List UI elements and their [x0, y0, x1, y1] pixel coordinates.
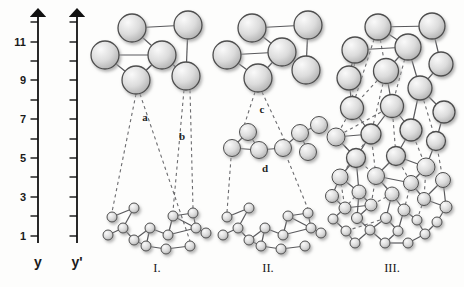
network-node: [365, 199, 377, 211]
network-node: [103, 230, 113, 240]
network-node: [161, 244, 171, 254]
network-node: [403, 238, 413, 248]
network-node: [224, 140, 241, 157]
network-node: [350, 238, 360, 248]
network-node: [185, 241, 195, 251]
network-node: [292, 125, 309, 142]
network-node: [342, 37, 368, 63]
network-node: [91, 41, 119, 69]
network-node: [174, 11, 202, 39]
network-node: [341, 226, 351, 236]
network-node: [408, 76, 432, 100]
network-node: [218, 230, 228, 240]
cross-edge-label-a: a: [142, 111, 148, 123]
panel-1-cross-edges: [112, 90, 193, 241]
network-node: [427, 132, 446, 151]
network-node: [240, 124, 257, 141]
network-node: [276, 244, 286, 254]
network-node: [118, 223, 128, 233]
network-node: [429, 52, 453, 76]
network-node: [328, 214, 338, 224]
y-axis-tick-label: 5: [20, 152, 26, 164]
y-prime-axis: y': [70, 13, 83, 270]
network-node: [380, 238, 390, 248]
network-node: [400, 119, 422, 141]
panel-1: [91, 11, 211, 254]
network-node: [303, 208, 313, 218]
network-node: [201, 228, 211, 238]
network-node: [260, 223, 270, 233]
network-node: [300, 241, 310, 251]
network-node: [118, 14, 146, 42]
network-node: [122, 66, 150, 94]
figure-canvas: 1197531yy' abI.cdII.III.: [0, 0, 464, 287]
network-node: [311, 117, 328, 134]
cross-level-edge: [112, 94, 136, 212]
cross-edge-label-b: b: [179, 130, 185, 142]
panel-2-caption: II.: [262, 261, 273, 275]
panel-1-fine-level: [103, 203, 211, 254]
network-node: [244, 235, 254, 245]
panel-2-fine-level: [218, 203, 326, 254]
network-node: [107, 212, 117, 222]
network-node: [387, 147, 406, 166]
network-node: [244, 64, 272, 92]
network-node: [163, 230, 173, 240]
network-node: [129, 235, 139, 245]
network-node: [420, 229, 430, 239]
y-axis-tick-label: 9: [20, 74, 26, 86]
cross-edge-label-c: c: [260, 103, 265, 115]
panel-3: [326, 13, 456, 248]
cross-edge-label-d: d: [262, 162, 268, 174]
network-node: [278, 230, 288, 240]
panel-1-coarse-level: [91, 11, 202, 94]
panel-2: [213, 11, 328, 254]
panel-2-intermediate-level: [224, 117, 328, 161]
network-node: [168, 211, 178, 221]
network-node: [268, 38, 296, 66]
network-node: [368, 168, 385, 185]
network-node: [339, 202, 351, 214]
network-node: [432, 217, 442, 227]
network-node: [141, 241, 151, 251]
y-prime-axis-title: y': [71, 254, 82, 270]
network-node: [352, 185, 366, 199]
network-node: [294, 11, 322, 39]
y-axis-tick-label: 7: [20, 113, 26, 125]
network-node: [172, 62, 200, 90]
panels-layer: [91, 11, 455, 254]
network-node: [129, 203, 139, 213]
network-node: [419, 13, 445, 39]
network-node: [381, 213, 392, 224]
cross-level-edge: [190, 90, 193, 208]
cross-level-edge: [227, 158, 231, 212]
network-node: [352, 213, 363, 224]
network-node: [393, 226, 403, 236]
network-node: [440, 201, 452, 213]
y-axis-tick-label: 1: [20, 230, 26, 242]
network-node: [148, 41, 176, 69]
network-node: [398, 204, 410, 216]
network-node: [365, 225, 375, 235]
network-node: [436, 173, 451, 188]
network-node: [433, 101, 455, 123]
panel-3-caption: III.: [384, 261, 400, 275]
panel-2-coarse-level: [213, 11, 322, 92]
network-node: [191, 223, 201, 233]
cross-level-edge: [288, 160, 308, 209]
network-diagram: 1197531yy' abI.cdII.III.: [0, 0, 464, 287]
panel-3-merged-network: [326, 13, 456, 248]
network-node: [222, 212, 232, 222]
network-node: [300, 144, 317, 161]
network-node: [341, 97, 364, 120]
network-node: [306, 223, 316, 233]
y-axis-title: y: [34, 254, 42, 270]
y-axis: 1197531y: [14, 13, 42, 270]
network-node: [332, 169, 348, 185]
network-node: [361, 124, 381, 144]
network-node: [251, 142, 268, 159]
network-node: [145, 223, 155, 233]
network-node: [395, 34, 421, 60]
network-node: [326, 190, 339, 203]
network-node: [381, 95, 404, 118]
